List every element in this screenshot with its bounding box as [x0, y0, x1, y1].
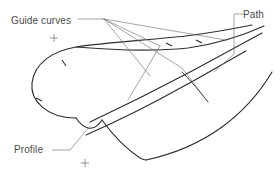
surface-mid-rail [90, 33, 262, 122]
path-curve [86, 51, 246, 135]
profile-notch-curve [76, 118, 102, 128]
guide-curves-leader-4 [104, 19, 150, 76]
tick-mark [62, 60, 66, 66]
callout-label-path: Path [243, 9, 264, 20]
diagram-canvas: Guide curves Path Profile [0, 0, 280, 177]
guide-curve-tail-1 [128, 46, 160, 100]
guide-curves-leader-2 [104, 19, 182, 68]
cross-marker-lower [81, 159, 89, 167]
path-leader [214, 14, 243, 72]
cross-marker-upper [50, 34, 58, 42]
guide-curves-leader-1 [104, 19, 160, 46]
profile-leader [52, 126, 90, 150]
tick-mark [196, 40, 202, 43]
callout-label-profile: Profile [14, 144, 43, 155]
callout-label-guide-curves: Guide curves [11, 15, 71, 26]
profile-lower-curve [102, 120, 146, 160]
surface-inner-connector [182, 72, 208, 102]
guide-curves-leader-3 [104, 19, 226, 40]
tick-mark [166, 43, 172, 46]
